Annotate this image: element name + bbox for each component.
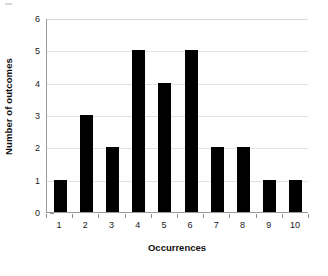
bar-slot <box>73 19 99 212</box>
bar-slot <box>152 19 178 212</box>
plot-area <box>46 19 308 213</box>
x-axis-title: Occurrences <box>46 242 308 253</box>
y-axis-tick-label: 4 <box>10 79 40 89</box>
bar[interactable] <box>106 147 119 212</box>
bar[interactable] <box>263 180 276 212</box>
x-axis-tick <box>151 214 152 218</box>
x-axis-tick-labels: 12345678910 <box>46 214 308 234</box>
bar-slot <box>99 19 125 212</box>
x-axis-tick-label: 4 <box>125 220 151 230</box>
bar[interactable] <box>211 147 224 212</box>
x-axis-tick-label: 7 <box>203 220 229 230</box>
x-axis-tick <box>308 214 309 218</box>
x-axis-tick <box>125 214 126 218</box>
y-axis-tick-label: 0 <box>10 208 40 218</box>
bar[interactable] <box>158 83 171 212</box>
x-axis-tick-label: 10 <box>282 220 308 230</box>
x-axis-tick-label: 6 <box>177 220 203 230</box>
bar-slot <box>204 19 230 212</box>
x-axis-tick <box>229 214 230 218</box>
x-axis-tick-label: 5 <box>151 220 177 230</box>
bar[interactable] <box>80 115 93 212</box>
x-axis-tick <box>98 214 99 218</box>
x-axis-tick <box>177 214 178 218</box>
bar-chart-figure: Number of outcomes 0123456 12345678910 O… <box>0 0 328 276</box>
bars-group <box>47 19 308 212</box>
y-axis-tick-labels: 0123456 <box>8 0 40 276</box>
x-axis-tick-label: 9 <box>256 220 282 230</box>
x-axis-tick <box>72 214 73 218</box>
x-axis-tick-label: 1 <box>46 220 72 230</box>
y-axis-tick-label: 6 <box>10 14 40 24</box>
x-axis-tick <box>256 214 257 218</box>
y-axis-tick-label: 3 <box>10 111 40 121</box>
bar[interactable] <box>289 180 302 212</box>
x-axis-tick <box>203 214 204 218</box>
y-axis-tick-label: 5 <box>10 46 40 56</box>
x-axis-tick <box>46 214 47 218</box>
bar-slot <box>178 19 204 212</box>
x-axis-tick-label: 3 <box>99 220 125 230</box>
bar-slot <box>257 19 283 212</box>
bar-slot <box>126 19 152 212</box>
bar-slot <box>47 19 73 212</box>
bar-slot <box>283 19 309 212</box>
bar[interactable] <box>185 50 198 212</box>
bar[interactable] <box>237 147 250 212</box>
y-axis-tick-label: 1 <box>10 176 40 186</box>
x-axis-tick-label: 8 <box>230 220 256 230</box>
x-axis-tick-label: 2 <box>72 220 98 230</box>
x-axis-tick <box>282 214 283 218</box>
y-axis-tick-label: 2 <box>10 143 40 153</box>
bar-slot <box>230 19 256 212</box>
bar[interactable] <box>54 180 67 212</box>
bar[interactable] <box>132 50 145 212</box>
